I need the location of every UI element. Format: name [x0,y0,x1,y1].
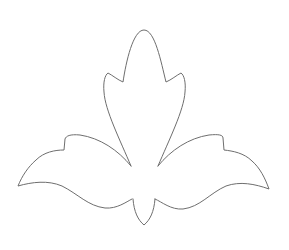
right-wing-petal [155,135,269,209]
left-wing-petal [18,135,132,208]
bottom-petal [133,199,155,225]
lotus-outline-icon [0,0,289,250]
drawing-canvas: Lotus / fleur outline [0,0,289,250]
center-petal [104,30,186,166]
